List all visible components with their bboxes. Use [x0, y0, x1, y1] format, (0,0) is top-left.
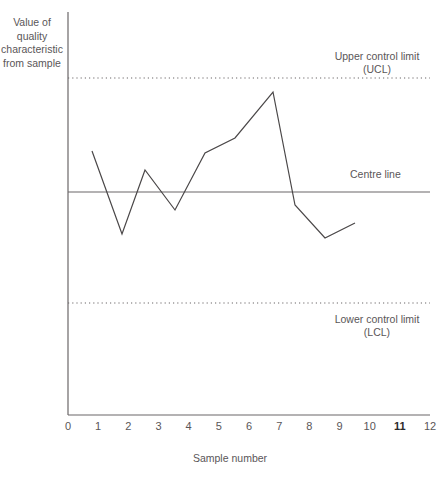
x-tick-7: 7 — [269, 420, 289, 432]
x-tick-11: 11 — [390, 420, 410, 432]
x-tick-10: 10 — [360, 420, 380, 432]
x-tick-8: 8 — [299, 420, 319, 432]
x-tick-0: 0 — [58, 420, 78, 432]
lower-control-limit-label: Lower control limit (LCL) — [318, 313, 436, 339]
sample-data-line — [92, 92, 355, 238]
x-tick-9: 9 — [330, 420, 350, 432]
x-tick-2: 2 — [118, 420, 138, 432]
x-tick-12: 12 — [420, 420, 440, 432]
x-axis-title: Sample number — [130, 452, 330, 465]
x-tick-3: 3 — [149, 420, 169, 432]
y-axis-title: Value of quality characteristic from sam… — [0, 16, 64, 70]
control-chart: Value of quality characteristic from sam… — [0, 0, 441, 482]
centre-line-label: Centre line — [350, 168, 401, 181]
upper-control-limit-label: Upper control limit (UCL) — [318, 50, 436, 76]
x-tick-4: 4 — [179, 420, 199, 432]
x-tick-5: 5 — [209, 420, 229, 432]
x-tick-6: 6 — [239, 420, 259, 432]
x-tick-1: 1 — [88, 420, 108, 432]
